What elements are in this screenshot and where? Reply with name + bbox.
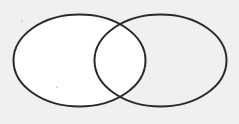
left-ellipse[interactable] xyxy=(14,15,146,107)
venn-diagram-canvas xyxy=(0,0,239,124)
venn-diagram-svg xyxy=(0,0,239,124)
